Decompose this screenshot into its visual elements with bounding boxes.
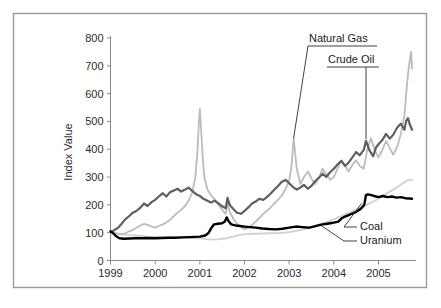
annotation-label-crude-oil: Crude Oil [328, 53, 374, 65]
y-tick-label: 500 [85, 115, 103, 127]
x-axis: 1999200020012002200320042005 [98, 261, 416, 279]
y-tick-label: 0 [97, 255, 103, 267]
x-tick-label: 1999 [98, 267, 122, 279]
annotation-label-coal: Coal [360, 220, 383, 232]
y-tick-label: 100 [85, 227, 103, 239]
x-tick-label: 2004 [322, 267, 346, 279]
y-tick-label: 200 [85, 199, 103, 211]
y-tick-label: 300 [85, 171, 103, 183]
annotation-label-natural-gas: Natural Gas [309, 32, 368, 44]
y-axis-title: Index Value [62, 123, 74, 180]
x-tick-label: 2005 [366, 267, 390, 279]
chart-figure: 0100200300400500600700800 19992000200120… [0, 0, 441, 308]
plot-lines [111, 52, 413, 240]
x-tick-label: 2000 [143, 267, 167, 279]
y-tick-label: 600 [85, 88, 103, 100]
x-tick-label: 2003 [277, 267, 301, 279]
y-tick-label: 400 [85, 143, 103, 155]
series-line-crude-oil [111, 118, 413, 231]
x-tick-label: 2002 [232, 267, 256, 279]
y-tick-label: 700 [85, 60, 103, 72]
annotation-label-uranium: Uranium [360, 234, 402, 246]
y-axis: 0100200300400500600700800 [85, 32, 110, 267]
x-tick-label: 2001 [188, 267, 212, 279]
annotation-leader-natural-gas [294, 46, 308, 138]
chart-canvas: 0100200300400500600700800 19992000200120… [0, 0, 441, 308]
annotation-leader-uranium [321, 226, 357, 241]
y-tick-label: 800 [85, 32, 103, 44]
